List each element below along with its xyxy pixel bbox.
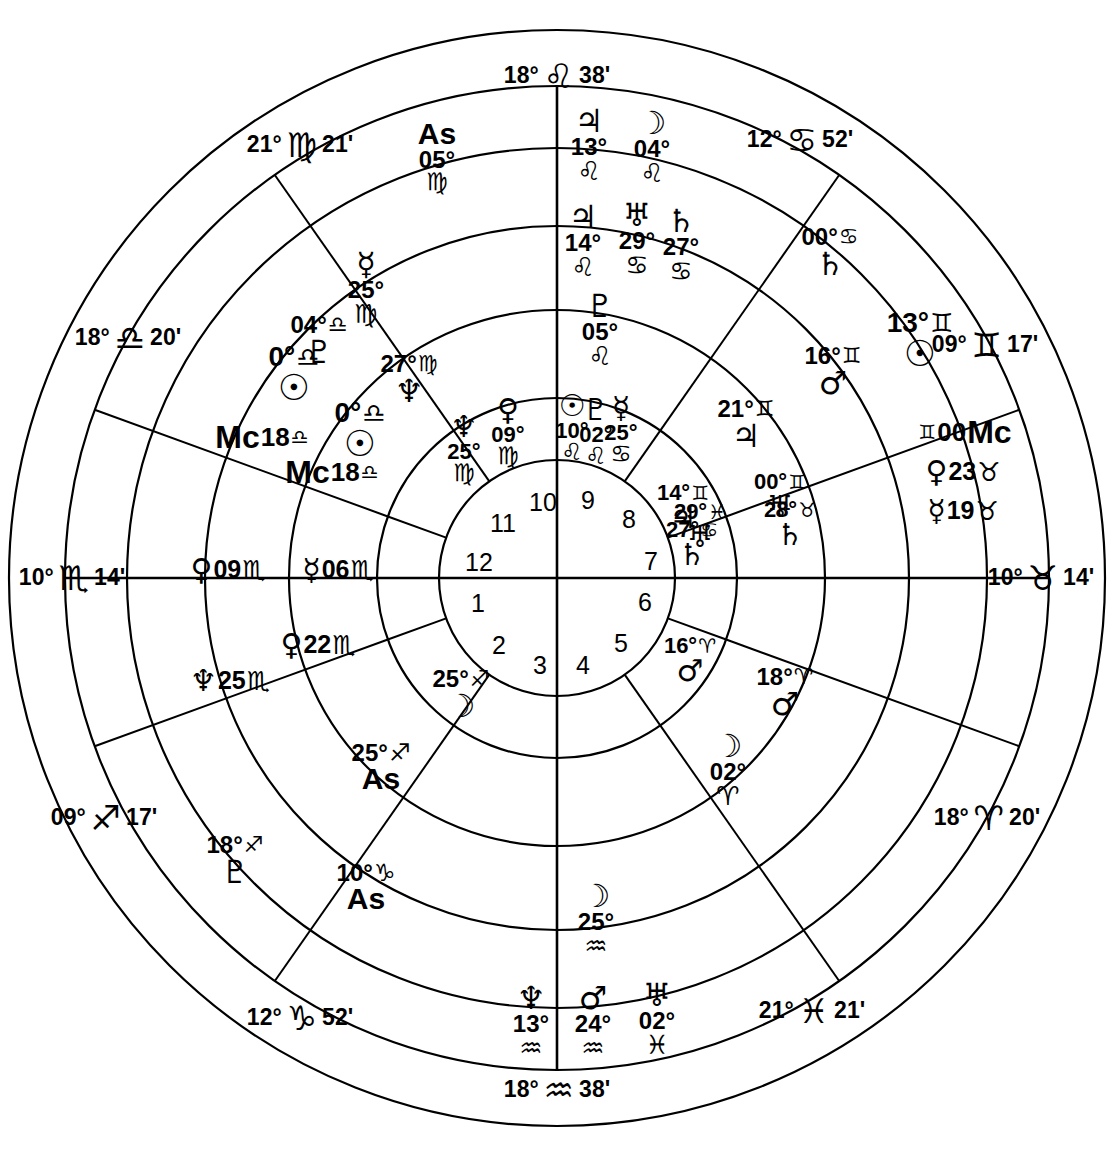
ring3-moon-leo-body: ☽ — [638, 108, 667, 138]
ring3-pluto-sag-stack: 18°♐♇ — [206, 834, 263, 887]
ring3-neptune-scorp: ♆25♏ — [190, 667, 270, 696]
cusp-4-ic-minute: 38' — [579, 1079, 610, 1101]
house-number-3: 3 — [533, 651, 547, 680]
ring2-jupiter-gem-body: ♃ — [732, 421, 761, 451]
cusp-8-degree: 18° — [75, 327, 110, 349]
sign-glyph-capricorn: ♑ — [287, 1002, 317, 1034]
ring3-mercury-taurus: ☿19♉ — [927, 497, 999, 526]
ring3-mc-libra-body: Mc — [215, 422, 259, 452]
sign-glyph-pisces: ♓ — [799, 995, 829, 1027]
ring3-neptune-scorp-body: ♆ — [190, 667, 217, 696]
ring3-mars-gemini-body: ♂ — [819, 368, 848, 398]
sign-glyph-scorpio: ♏ — [332, 633, 355, 658]
ring2-moon-aquarius-body: ☽ — [582, 881, 611, 911]
ring1-venus-virgo-stack: ♀09°♍ — [491, 396, 524, 468]
ring3-uranus-pisces-body: ♅ — [643, 980, 672, 1010]
cusp-1-asc-minute: 14' — [1063, 567, 1094, 589]
cusp-4-ic-row: 18°♒38' — [504, 1074, 610, 1106]
house-divider-9 — [388, 618, 446, 639]
ring2-saturn-cancer-body: ♄ — [667, 206, 696, 236]
ring3-sun-gemini-stack: 13°♊☉ — [887, 310, 954, 371]
ring2-saturn-cancer-stack: ♄27°♋ — [663, 206, 699, 284]
sign-glyph-virgo: ♍ — [453, 462, 475, 485]
ring3-sun-libra-body: ☉ — [278, 370, 310, 404]
sign-glyph-scorpio: ♏ — [350, 558, 373, 583]
ring3-asc-capricorn: 10°♑As — [337, 862, 396, 913]
house-number-9: 9 — [581, 486, 595, 515]
ring2-asc-sag: 25°♐As — [352, 742, 411, 793]
ring2-saturn-taurus-stack: 28°♉♄ — [764, 500, 816, 549]
ring3-sun-gemini-body: ☉ — [904, 336, 936, 370]
ring3-venus-taurus-degree: 23 — [948, 460, 976, 484]
cusp-6-degree: 09° — [51, 807, 86, 829]
ring3-venus-taurus-row: ♀23♉ — [925, 458, 1000, 487]
ring3-asc-virgo-body: As — [418, 120, 456, 149]
ring2-moon-sag: 25°♐☽ — [432, 668, 489, 721]
cusp-5-degree: 12° — [247, 1007, 282, 1029]
ring2-mc-libra-body: Mc — [285, 457, 329, 487]
cusp-1-asc-degree: 10° — [988, 567, 1023, 589]
sign-glyph-aquarius: ♒ — [584, 934, 607, 959]
ring3-mars-aquarius: ♂24°♒ — [575, 983, 611, 1061]
ring3-venus-taurus: ♀23♉ — [925, 458, 1000, 487]
cusp-8-row: 18°♎20' — [75, 322, 181, 354]
cusp-3-degree: 21° — [759, 1000, 794, 1022]
cusp-7-dsc-row: 10°♏14' — [19, 562, 125, 594]
ring2-mc-libra-row: Mc18♎ — [285, 457, 378, 487]
sign-glyph-pisces: ♓ — [645, 1033, 668, 1058]
sign-glyph-virgo: ♍ — [354, 302, 377, 327]
cusp-9: 21°♍21' — [247, 129, 353, 161]
ring3-venus-scorpio-body: ♀ — [190, 556, 212, 585]
ring3-asc-virgo: As05°♍ — [418, 120, 456, 194]
ring2-mercury-virgo: ☿25°♍ — [348, 249, 384, 327]
cusp-4-ic: 18°♒38' — [504, 1074, 610, 1106]
ring3-mercury-taurus-degree: 19 — [947, 499, 975, 523]
ring3-neptune-aqu-body: ♆ — [517, 983, 546, 1013]
ring3-moon-leo: ☽04°♌ — [634, 108, 670, 186]
cusp-6-row: 09°♐17' — [51, 802, 157, 834]
sign-glyph-taurus: ♉ — [977, 460, 1000, 485]
ring2-saturn-cancer2-stack: 27°♋♄ — [666, 520, 718, 569]
cusp-2: 18°♈20' — [934, 802, 1040, 834]
house-number-7: 7 — [644, 547, 658, 576]
ring2-moon-sag-stack: 25°♐☽ — [432, 668, 489, 721]
ring2-saturn-cancer2: 27°♋♄ — [666, 520, 718, 569]
cusp-6-minute: 17' — [126, 807, 157, 829]
ring3-mars-aquarius-stack: ♂24°♒ — [575, 983, 611, 1061]
sign-glyph-virgo: ♍ — [426, 171, 448, 194]
ring3-mars-aries-body: ♂ — [771, 689, 800, 719]
sign-glyph-gemini: ♊ — [918, 422, 936, 441]
ring3-pluto-sag: 18°♐♇ — [206, 834, 263, 887]
ring3-uranus-pisces: ♅02°♓ — [639, 980, 675, 1058]
cusp-7-dsc-degree: 10° — [19, 567, 54, 589]
ring3-jupiter-leo: ♃13°♌ — [571, 106, 607, 184]
ring3-mc-libra: Mc18♎ — [215, 422, 308, 452]
ring3-moon-leo-stack: ☽04°♌ — [634, 108, 670, 186]
house-number-1: 1 — [471, 589, 485, 618]
astrology-chart-wheel: 18°♌38'12°♋52'09°♊17'10°♉14'18°♈20'21°♓2… — [0, 0, 1115, 1155]
ring3-mc-gemini-body: Mc — [967, 417, 1011, 447]
house-divider-11 — [388, 516, 446, 537]
ring2-uranus-cancer-body: ♅ — [623, 200, 652, 230]
ring3-asc-capricorn-stack: 10°♑As — [337, 862, 396, 913]
ring3-moon-aries: ☽02°♈ — [710, 731, 746, 809]
ring2-sun-libra-body: ☉ — [344, 426, 376, 460]
sign-glyph-taurus: ♉ — [1028, 562, 1058, 594]
cusp-5: 12°♑52' — [247, 1002, 353, 1034]
ring3-mc-gemini-degree: 00 — [937, 420, 966, 445]
cusp-4-ic-degree: 18° — [504, 1079, 539, 1101]
sign-glyph-aries: ♈ — [974, 802, 1004, 834]
ring2-venus-scorpio: ♀22♏ — [280, 631, 355, 660]
cusp-2-minute: 20' — [1009, 807, 1040, 829]
cusp-3-minute: 21' — [834, 1000, 865, 1022]
ring2-uranus-cancer-stack: ♅29°♋ — [619, 200, 655, 278]
cusp-9-row: 21°♍21' — [247, 129, 353, 161]
ring3-neptune-aqu-stack: ♆13°♒ — [513, 983, 549, 1061]
sign-glyph-leo: ♌ — [588, 344, 611, 369]
ring3-asc-virgo-stack: As05°♍ — [418, 120, 456, 194]
ring2-mercury-scorp-row: ☿06♏ — [302, 556, 374, 585]
ring2-jupiter-leo-body: ♃ — [569, 202, 598, 232]
ring2-moon-aquarius-stack: ☽25°♒ — [578, 881, 614, 959]
ring3-mars-aries: 18°♈♂ — [756, 666, 813, 719]
sign-glyph-libra: ♎ — [362, 401, 385, 426]
